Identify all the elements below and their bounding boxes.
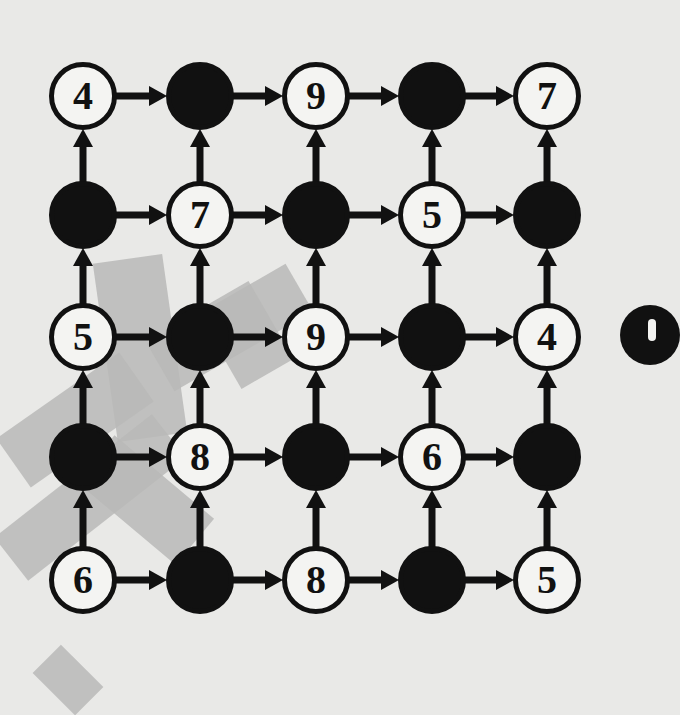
node-filled [282, 181, 350, 249]
node-number: 7 [166, 181, 234, 249]
arrow [306, 248, 326, 305]
node-value: 8 [306, 560, 326, 600]
arrow [232, 447, 283, 467]
arrow [115, 447, 167, 467]
node-number: 8 [166, 423, 234, 491]
node-filled [166, 303, 234, 371]
node-number: 5 [513, 546, 581, 614]
arrow [115, 86, 167, 106]
arrow [422, 490, 442, 548]
node-filled [282, 423, 350, 491]
arrow [115, 570, 167, 590]
node-number: 6 [398, 423, 466, 491]
arrow [464, 86, 514, 106]
arrow [306, 490, 326, 548]
arrow [306, 370, 326, 425]
node-number: 5 [49, 303, 117, 371]
node-value: 8 [190, 437, 210, 477]
node-filled [398, 62, 466, 130]
node-number: 7 [513, 62, 581, 130]
arrow [232, 205, 283, 225]
node-filled [49, 423, 117, 491]
arrow [73, 248, 93, 305]
arrow [232, 327, 283, 347]
arrow [190, 129, 210, 183]
arrow [348, 327, 399, 347]
node-value: 5 [422, 195, 442, 235]
node-filled [513, 423, 581, 491]
node-filled [166, 546, 234, 614]
node-value: 9 [306, 317, 326, 357]
node-filled [398, 303, 466, 371]
arrow [115, 205, 167, 225]
arrow [537, 248, 557, 305]
arrow [422, 129, 442, 183]
node-value: 9 [306, 76, 326, 116]
arrow [348, 86, 399, 106]
node-value: 6 [73, 560, 93, 600]
arrow [306, 129, 326, 183]
arrow [348, 570, 399, 590]
arrow [115, 327, 167, 347]
arrow [422, 370, 442, 425]
node-value: 4 [537, 317, 557, 357]
arrow [464, 447, 514, 467]
node-number: 8 [282, 546, 350, 614]
node-number: 5 [398, 181, 466, 249]
node-value: 5 [73, 317, 93, 357]
node-number: 6 [49, 546, 117, 614]
arrow [190, 370, 210, 425]
arrow [537, 129, 557, 183]
arrow [464, 327, 514, 347]
arrow [73, 129, 93, 183]
node-value: 5 [537, 560, 557, 600]
node-filled [398, 546, 466, 614]
arrow [537, 490, 557, 548]
node-number: 4 [49, 62, 117, 130]
node-number: 9 [282, 62, 350, 130]
arrow [464, 570, 514, 590]
node-number: 4 [513, 303, 581, 371]
node-value: 7 [190, 195, 210, 235]
arrow [537, 370, 557, 425]
arrow [232, 86, 283, 106]
node-number: 9 [282, 303, 350, 371]
arrow [190, 248, 210, 305]
arrow [348, 447, 399, 467]
arrow [348, 205, 399, 225]
node-value: 6 [422, 437, 442, 477]
partial-node-right-edge [620, 305, 680, 365]
node-value: 4 [73, 76, 93, 116]
arrow [190, 490, 210, 548]
node-filled [513, 181, 581, 249]
arrow [422, 248, 442, 305]
node-value: 7 [537, 76, 557, 116]
arrow [232, 570, 283, 590]
arrow [464, 205, 514, 225]
node-filled [166, 62, 234, 130]
arrow [73, 490, 93, 548]
arrow [73, 370, 93, 425]
node-filled [49, 181, 117, 249]
